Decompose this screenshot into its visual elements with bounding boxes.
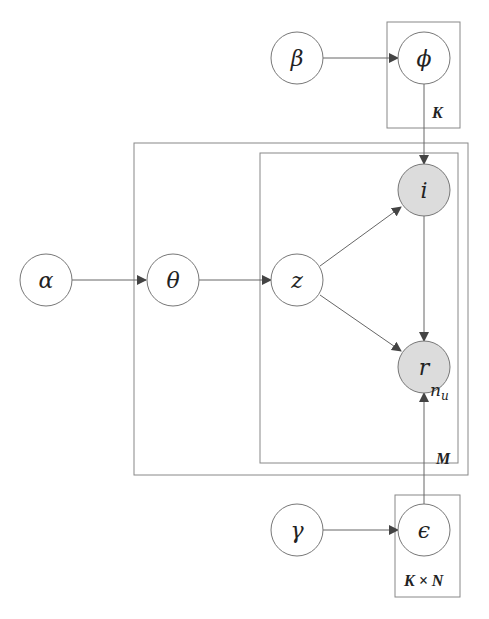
plate-m-label: M (436, 450, 450, 468)
plate-k-label: K (432, 104, 443, 122)
label-gamma: γ (271, 504, 323, 556)
edge-z-r (320, 295, 401, 351)
label-z: z (271, 254, 323, 306)
label-theta: θ (147, 254, 199, 306)
label-i: i (398, 164, 450, 216)
label-beta: β (271, 32, 323, 84)
label-epsilon: ϵ (398, 504, 450, 556)
edge-z-i (320, 207, 401, 266)
plate-kxn-label: K × N (404, 572, 443, 590)
label-phi: ϕ (398, 32, 450, 84)
plate-nu-label: nu (430, 380, 449, 403)
label-alpha: α (20, 254, 72, 306)
